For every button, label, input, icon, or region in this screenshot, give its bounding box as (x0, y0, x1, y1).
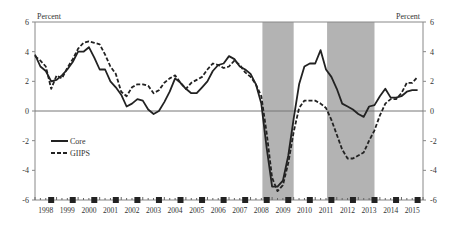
square-marker (285, 197, 291, 203)
square-marker (91, 197, 97, 203)
square-marker (328, 197, 334, 203)
x-tick-label: 2002 (125, 206, 140, 215)
square-marker (415, 197, 421, 203)
right-tick-label: 0 (430, 107, 434, 116)
left-tick-label: 2 (25, 77, 29, 86)
x-tick-label: 2006 (211, 206, 226, 215)
square-marker (156, 197, 162, 203)
legend-giips-label: GIIPS (70, 149, 90, 158)
chart-axes: -6-6-4-4-2-20022446619981999200020012002… (22, 18, 436, 215)
square-marker (134, 197, 140, 203)
square-marker (199, 197, 205, 203)
x-tick-label: 2008 (254, 206, 269, 215)
left-tick-label: 4 (25, 48, 29, 57)
square-marker (178, 197, 184, 203)
x-tick-label: 2013 (362, 206, 377, 215)
square-marker (221, 197, 227, 203)
x-tick-label: 2012 (340, 206, 355, 215)
x-tick-label: 2000 (81, 206, 96, 215)
x-tick-label: 2009 (275, 206, 290, 215)
left-tick-label: -4 (22, 166, 29, 175)
right-axis-unit-label: Percent (396, 12, 421, 21)
left-tick-label: 0 (25, 107, 29, 116)
right-tick-label: 4 (430, 48, 434, 57)
x-tick-label: 2014 (383, 206, 398, 215)
square-marker (48, 197, 54, 203)
square-marker (70, 197, 76, 203)
x-tick-label: 2007 (232, 206, 247, 215)
x-tick-label: 2015 (405, 206, 420, 215)
left-tick-label: -2 (22, 137, 29, 146)
legend-core-label: Core (70, 137, 86, 146)
right-tick-label: 6 (430, 18, 434, 27)
square-marker (113, 197, 119, 203)
square-marker (264, 197, 270, 203)
square-marker (350, 197, 356, 203)
legend: Core GIIPS (51, 137, 90, 158)
x-tick-label: 2005 (189, 206, 204, 215)
x-tick-label: 1998 (38, 206, 53, 215)
left-tick-label: 6 (25, 18, 29, 27)
x-tick-label: 2003 (146, 206, 161, 215)
x-tick-label: 2011 (319, 206, 334, 215)
right-tick-label: -2 (430, 137, 437, 146)
x-tick-label: 1999 (60, 206, 75, 215)
square-marker (393, 197, 399, 203)
square-marker (372, 197, 378, 203)
right-tick-label: 2 (430, 77, 434, 86)
right-tick-label: -4 (430, 166, 437, 175)
x-tick-label: 2001 (103, 206, 118, 215)
square-marker (307, 197, 313, 203)
left-tick-label: -6 (22, 196, 29, 205)
x-tick-label: 2004 (168, 206, 183, 215)
right-tick-label: -6 (430, 196, 437, 205)
left-axis-unit-label: Percent (37, 12, 62, 21)
x-tick-label: 2010 (297, 206, 312, 215)
square-marker (242, 197, 248, 203)
line-chart: -6-6-4-4-2-20022446619981999200020012002… (0, 0, 453, 225)
